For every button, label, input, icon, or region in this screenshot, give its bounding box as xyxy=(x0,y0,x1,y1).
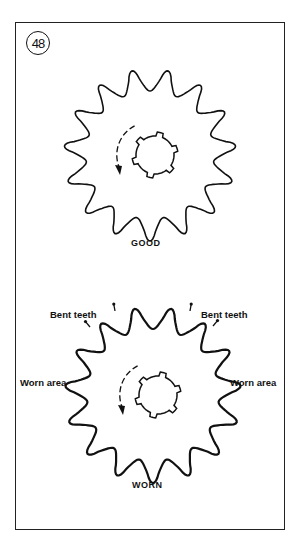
arrowhead-icon xyxy=(112,303,115,306)
worn-caption: WORN xyxy=(132,480,163,490)
rotation-arrow xyxy=(120,366,138,407)
arrowhead-icon xyxy=(190,303,193,306)
arrowhead-icon xyxy=(118,405,125,415)
worn-area-label-left: Worn area xyxy=(20,377,66,388)
sprocket-outline xyxy=(66,309,241,483)
arrowhead-icon xyxy=(115,165,122,175)
bent-teeth-label-right: Bent teeth xyxy=(201,309,247,320)
good-caption: GOOD xyxy=(131,238,161,248)
good-sprocket xyxy=(65,71,236,241)
rotation-arrow xyxy=(117,126,135,167)
splined-hub xyxy=(135,372,180,418)
sprocket-diagrams xyxy=(0,0,301,547)
splined-hub xyxy=(132,132,177,178)
worn-sprocket xyxy=(66,303,241,484)
arrowhead-icon xyxy=(84,320,87,323)
sprocket-outline xyxy=(65,71,236,241)
bent-teeth-label-left: Bent teeth xyxy=(50,309,96,320)
worn-area-label-right: Worn area xyxy=(230,377,276,388)
